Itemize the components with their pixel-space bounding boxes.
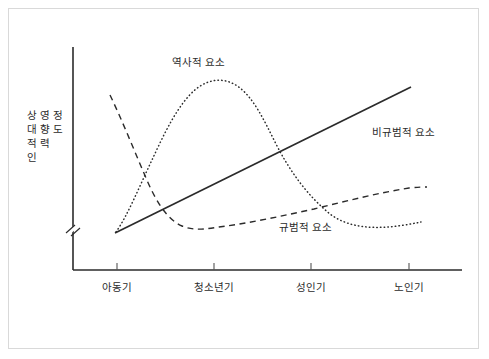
y-axis-label-col-2: 영 향 력: [39, 108, 52, 150]
y-axis-label-char: 상: [26, 108, 39, 122]
series-label-nonnormative: 비규범적 요소: [372, 124, 435, 139]
figure-canvas: 상 대 적 인 영 향 력 정 도 아동기 청소년기 성인기 노인기 역사적 요…: [0, 0, 489, 359]
y-axis-label-char: 향: [39, 122, 52, 136]
y-axis-label-char: 인: [26, 150, 39, 164]
y-axis-label-char: 대: [26, 122, 39, 136]
y-axis-label-col-3: 정 도: [52, 108, 65, 136]
x-axis-label-oldage: 노인기: [374, 279, 444, 294]
series-label-historical: 역사적 요소: [172, 54, 225, 69]
y-axis-label-char: 력: [39, 136, 52, 150]
x-axis-label-adolescence: 청소년기: [179, 279, 249, 294]
y-axis-label-col-1: 상 대 적 인: [26, 108, 39, 164]
plot-area: [0, 0, 489, 359]
y-axis-label-char: 정: [52, 108, 65, 122]
series-label-normative: 규범적 요소: [279, 219, 332, 234]
y-axis-label-char: 도: [52, 122, 65, 136]
x-axis-label-adulthood: 성인기: [276, 279, 346, 294]
x-axis-label-childhood: 아동기: [82, 279, 152, 294]
y-axis-label: 상 대 적 인 영 향 력 정 도: [24, 108, 66, 164]
series-line-normative: [110, 95, 427, 229]
y-axis-label-char: 적: [26, 136, 39, 150]
series-line-nonnormative: [115, 87, 411, 233]
y-axis-label-char: 영: [39, 108, 52, 122]
